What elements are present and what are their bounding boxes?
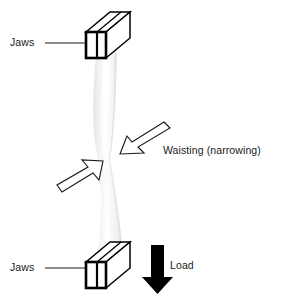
jaws-bottom-box — [86, 242, 130, 288]
waisting-label: Waisting (narrowing) — [163, 144, 261, 156]
solid-arrow-down-icon — [142, 245, 173, 294]
jaws-top-callout: Jaws — [10, 36, 86, 48]
specimen — [93, 50, 124, 262]
outlined-arrow-up-right-icon — [57, 160, 103, 192]
load-arrow — [142, 245, 173, 294]
tensile-test-diagram: Jaws Jaws Waisting (narrowing) Load — [0, 0, 281, 301]
jaws-bottom-callout: Jaws — [10, 261, 86, 273]
load-label: Load — [170, 259, 194, 271]
jaws-bottom-label: Jaws — [10, 261, 34, 273]
jaws-top-label: Jaws — [10, 36, 34, 48]
waist-pointer-lower-arrow — [57, 160, 103, 192]
diagram-canvas: Jaws Jaws Waisting (narrowing) Load — [0, 0, 281, 301]
jaws-top-box — [86, 12, 130, 58]
